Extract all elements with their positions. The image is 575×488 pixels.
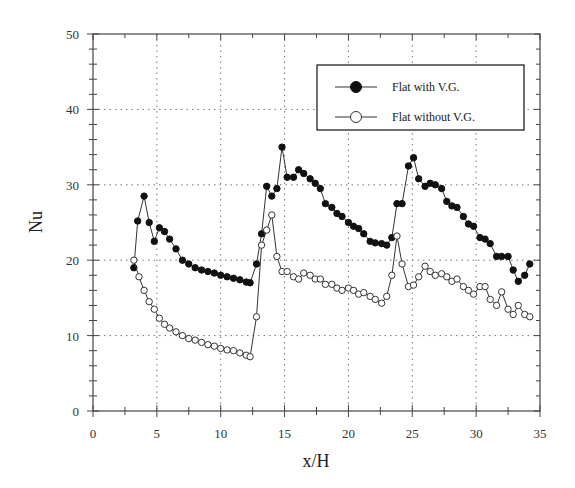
filled-circle-marker-icon (438, 185, 444, 191)
filled-circle-marker-icon (384, 242, 390, 248)
x-tick-label: 20 (342, 426, 355, 441)
filled-circle-marker-icon (263, 183, 269, 189)
open-circle-marker-icon (131, 257, 137, 263)
x-tick-label: 5 (154, 426, 161, 441)
open-circle-marker-icon (470, 291, 476, 297)
filled-circle-marker-icon (192, 265, 198, 271)
filled-circle-marker-icon (253, 261, 259, 267)
open-circle-marker-icon (454, 276, 460, 282)
filled-circle-marker-icon (498, 253, 504, 259)
filled-circle-marker-icon (218, 272, 224, 278)
open-circle-marker-icon (146, 298, 152, 304)
open-circle-marker-icon (211, 343, 217, 349)
filled-circle-marker-icon (487, 240, 493, 246)
filled-circle-marker-icon (135, 218, 141, 224)
open-circle-marker-icon (339, 287, 345, 293)
series-without-vg (131, 212, 533, 360)
open-circle-marker-icon (378, 300, 384, 306)
filled-circle-marker-icon (505, 253, 511, 259)
open-circle-marker-icon (510, 311, 516, 317)
filled-circle-marker-icon (405, 163, 411, 169)
open-circle-marker-icon (372, 296, 378, 302)
open-circle-marker-icon (410, 282, 416, 288)
filled-circle-marker-icon (141, 193, 147, 199)
filled-circle-marker-icon (355, 225, 361, 231)
filled-circle-marker-icon (173, 246, 179, 252)
filled-circle-marker-icon (151, 238, 157, 244)
filled-circle-marker-icon (211, 270, 217, 276)
legend-label-with-vg: Flat with V.G. (392, 80, 460, 94)
open-circle-marker-icon (399, 261, 405, 267)
filled-circle-marker-icon (432, 182, 438, 188)
filled-circle-marker-icon (161, 228, 167, 234)
open-circle-marker-icon (166, 325, 172, 331)
filled-circle-marker-icon (166, 236, 172, 242)
open-circle-marker-icon (263, 227, 269, 233)
y-tick-label: 0 (73, 404, 80, 419)
legend-label-without-vg: Flat without V.G. (392, 110, 475, 124)
open-circle-marker-icon (258, 242, 264, 248)
open-circle-marker-icon (351, 112, 362, 123)
y-tick-label: 50 (66, 27, 79, 42)
open-circle-marker-icon (179, 332, 185, 338)
filled-circle-marker-icon (269, 193, 275, 199)
filled-circle-marker-icon (284, 174, 290, 180)
filled-circle-marker-icon (230, 275, 236, 281)
filled-circle-marker-icon (186, 261, 192, 267)
filled-circle-marker-icon (515, 278, 521, 284)
open-circle-marker-icon (493, 302, 499, 308)
x-tick-label: 25 (406, 426, 419, 441)
open-circle-marker-icon (247, 354, 253, 360)
x-axis-title: x/H (303, 451, 330, 471)
open-circle-marker-icon (205, 341, 211, 347)
open-circle-marker-icon (322, 281, 328, 287)
open-circle-marker-icon (218, 345, 224, 351)
x-tick-label: 10 (214, 426, 227, 441)
filled-circle-marker-icon (521, 272, 527, 278)
open-circle-marker-icon (432, 272, 438, 278)
data-series (131, 144, 533, 360)
open-circle-marker-icon (527, 314, 533, 320)
filled-circle-marker-icon (372, 240, 378, 246)
filled-circle-marker-icon (274, 185, 280, 191)
x-tick-label: 30 (470, 426, 483, 441)
filled-circle-marker-icon (317, 185, 323, 191)
filled-circle-marker-icon (312, 180, 318, 186)
filled-circle-marker-icon (470, 223, 476, 229)
filled-circle-marker-icon (454, 204, 460, 210)
open-circle-marker-icon (415, 274, 421, 280)
open-circle-marker-icon (224, 347, 230, 353)
filled-circle-marker-icon (179, 257, 185, 263)
filled-circle-marker-icon (146, 219, 152, 225)
open-circle-marker-icon (156, 315, 162, 321)
open-circle-marker-icon (284, 268, 290, 274)
open-circle-marker-icon (389, 272, 395, 278)
open-circle-marker-icon (515, 302, 521, 308)
y-tick-label: 20 (66, 253, 79, 268)
filled-circle-marker-icon (322, 200, 328, 206)
x-tick-label: 35 (534, 426, 547, 441)
filled-circle-marker-icon (339, 213, 345, 219)
filled-circle-marker-icon (361, 231, 367, 237)
series-with-vg (131, 144, 533, 286)
y-tick-label: 40 (66, 102, 79, 117)
filled-circle-marker-icon (399, 200, 405, 206)
y-tick-label: 10 (66, 329, 79, 344)
open-circle-marker-icon (498, 289, 504, 295)
filled-circle-marker-icon (415, 176, 421, 182)
open-circle-marker-icon (384, 293, 390, 299)
open-circle-marker-icon (361, 289, 367, 295)
filled-circle-marker-icon (460, 213, 466, 219)
open-circle-marker-icon (253, 314, 259, 320)
open-circle-marker-icon (301, 270, 307, 276)
open-circle-marker-icon (269, 212, 275, 218)
legend: Flat with V.G. Flat without V.G. (317, 65, 524, 130)
filled-circle-marker-icon (247, 280, 253, 286)
filled-circle-marker-icon (237, 277, 243, 283)
filled-circle-marker-icon (410, 154, 416, 160)
x-tick-label: 0 (90, 426, 97, 441)
filled-circle-marker-icon (224, 274, 230, 280)
open-circle-marker-icon (482, 283, 488, 289)
y-tick-label: 30 (66, 178, 79, 193)
open-circle-marker-icon (422, 263, 428, 269)
